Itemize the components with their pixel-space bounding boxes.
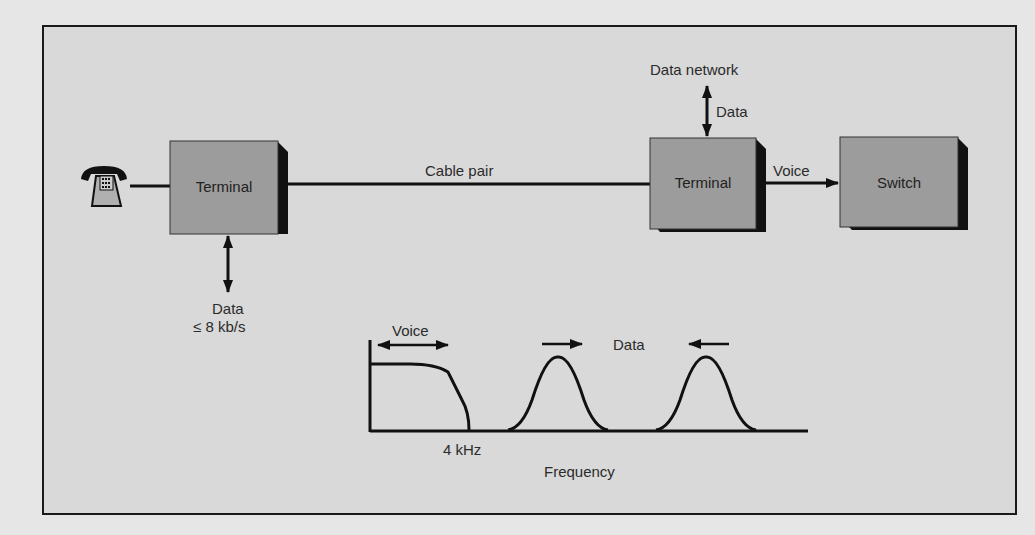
terminal-right-label: Terminal [650, 174, 756, 191]
data-network-label: Data network [650, 61, 738, 78]
frequency-axis-label: Frequency [544, 463, 615, 480]
voice-label: Voice [773, 162, 810, 179]
cutoff-label: 4 kHz [443, 441, 481, 458]
data-down-label: Data [212, 300, 244, 317]
switch-label: Switch [840, 174, 958, 191]
spectrum-plot [370, 340, 808, 432]
spectrum-voice-label: Voice [392, 322, 429, 339]
terminal-left-label: Terminal [170, 178, 278, 195]
diagram-canvas [0, 0, 1035, 535]
spectrum-data-label: Data [613, 336, 645, 353]
telephone-icon [81, 166, 127, 206]
cable-pair-label: Cable pair [425, 162, 493, 179]
data-rate-label: ≤ 8 kb/s [193, 318, 245, 335]
data-up-label: Data [716, 103, 748, 120]
